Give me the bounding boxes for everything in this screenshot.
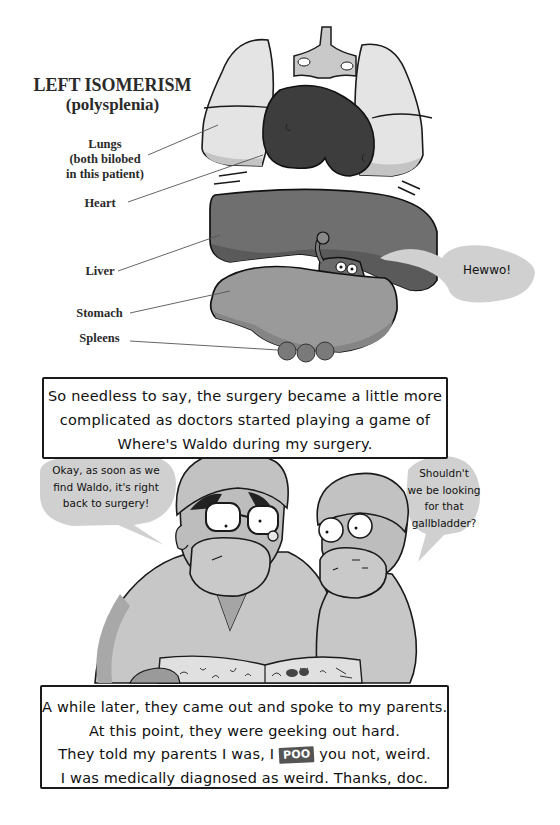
caption-bottom-line-3: They told my parents I was, I POO you no…: [42, 743, 447, 767]
caption-bottom-line: A while later, they came out and spoke t…: [42, 696, 447, 720]
label-liver: Liver: [70, 264, 130, 279]
poo-badge: POO: [279, 746, 315, 764]
caption-bottom: A while later, they came out and spoke t…: [40, 685, 449, 789]
speech-hewwo-text: Hewwo!: [442, 263, 532, 277]
speech-right-line: gallbladder?: [405, 515, 483, 532]
caption-text: They told my parents I was, I: [58, 746, 279, 762]
surgeon-right-mask: [320, 548, 386, 598]
speech-right-line: for that: [405, 498, 483, 515]
label-lungs: Lungs (both bilobed in this patient): [55, 137, 155, 182]
surgeon-left-mask: [190, 538, 270, 596]
speech-right-text: Shouldn't we be looking for that gallbla…: [405, 465, 483, 531]
label-lungs-line: (both bilobed: [55, 152, 155, 167]
label-stomach: Stomach: [62, 306, 137, 321]
label-lungs-line: Lungs: [55, 137, 155, 152]
label-spleens: Spleens: [62, 331, 137, 346]
diagram-title: LEFT ISOMERISM (polysplenia): [20, 75, 205, 115]
speech-left-line: Okay, as soon as we: [46, 462, 166, 479]
spleens: [278, 342, 334, 362]
caption-bottom-line: At this point, they were geeking out har…: [42, 720, 447, 744]
speech-left-text: Okay, as soon as we find Waldo, it's rig…: [46, 462, 166, 512]
caption-text: you not, weird.: [314, 746, 430, 762]
diagram-title-main: LEFT ISOMERISM: [20, 75, 205, 95]
caption-bottom-line: I was medically diagnosed as weird. Than…: [42, 767, 447, 791]
diagram-title-sub: (polysplenia): [20, 95, 205, 115]
speech-right-line: we be looking: [405, 482, 483, 499]
speech-right-line: Shouldn't: [405, 465, 483, 482]
speech-left-line: back to surgery!: [46, 495, 166, 512]
speech-left-line: find Waldo, it's right: [46, 479, 166, 496]
label-heart: Heart: [70, 196, 130, 211]
lung-left: [202, 40, 273, 166]
caption-top-line: So needless to say, the surgery became a…: [44, 384, 446, 408]
label-lungs-line: in this patient): [55, 167, 155, 182]
caption-top-line: Where's Waldo during my surgery.: [44, 432, 446, 456]
caption-top-line: complicated as doctors started playing a…: [44, 408, 446, 432]
caption-top: So needless to say, the surgery became a…: [42, 377, 448, 459]
